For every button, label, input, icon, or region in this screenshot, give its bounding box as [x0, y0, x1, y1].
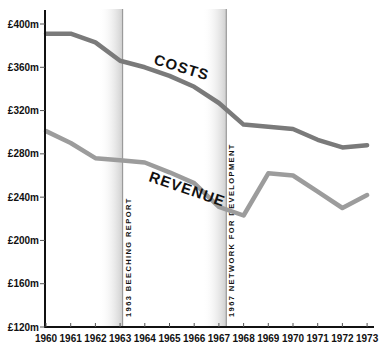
x-tick-label: 1973 [356, 333, 379, 344]
y-tick-label: £280m [8, 148, 39, 159]
event-band-1967: 1967 NETWORK FOR DEVELOPMENT [202, 9, 236, 327]
axes: £120m£160m£200m£240m£280m£320m£360m£400m… [8, 10, 379, 344]
y-tick-label: £240m [8, 192, 39, 203]
line-chart: 1963 BEECHING REPORT1967 NETWORK FOR DEV… [0, 0, 380, 347]
y-tick-label: £120m [8, 322, 39, 333]
x-tick-label: 1965 [158, 333, 181, 344]
x-tick-label: 1960 [35, 333, 58, 344]
x-tick-label: 1963 [109, 333, 132, 344]
x-tick-label: 1966 [183, 333, 206, 344]
x-tick-label: 1961 [60, 333, 83, 344]
x-tick-label: 1971 [307, 333, 330, 344]
x-tick-label: 1962 [84, 333, 107, 344]
event-label-1967: 1967 NETWORK FOR DEVELOPMENT [227, 143, 236, 317]
event-label-1963: 1963 BEECHING REPORT [124, 197, 133, 317]
x-tick-label: 1964 [134, 333, 157, 344]
x-tick-label: 1969 [257, 333, 280, 344]
x-tick-label: 1972 [331, 333, 354, 344]
x-tick-label: 1970 [282, 333, 305, 344]
x-tick-label: 1967 [208, 333, 231, 344]
y-tick-label: £200m [8, 235, 39, 246]
y-tick-label: £360m [8, 62, 39, 73]
y-tick-label: £320m [8, 105, 39, 116]
y-tick-label: £400m [8, 19, 39, 30]
x-tick-label: 1968 [232, 333, 255, 344]
y-tick-label: £160m [8, 278, 39, 289]
